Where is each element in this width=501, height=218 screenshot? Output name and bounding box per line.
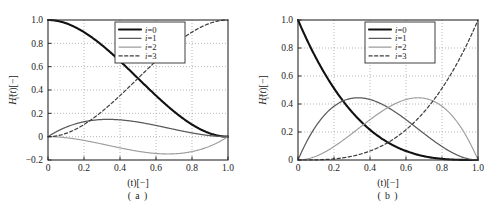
legend: i=0i=1i=2i=3: [115, 22, 185, 63]
x-tick-label: 0.6: [150, 163, 162, 173]
x-tick-label: 0.8: [186, 163, 198, 173]
curve-i1: [48, 119, 228, 136]
x-tick-label: 1.0: [472, 163, 484, 173]
y-tick-label: 0.4: [281, 99, 293, 109]
y-tick-label: 0.8: [31, 39, 43, 49]
x-tick-label: 0.4: [114, 163, 126, 173]
y-tick-label: 0.6: [31, 62, 43, 72]
legend-label-i3: i=3: [145, 51, 157, 61]
y-tick-label: 0.2: [281, 127, 293, 137]
curve-i2: [298, 98, 478, 160]
plot-a: 00.20.40.60.81.0−0.200.20.40.60.81.0(t)[…: [0, 0, 250, 218]
y-tick-label: 1.0: [281, 15, 293, 25]
panel-caption: ( a ): [128, 190, 148, 202]
y-tick-label: 0.2: [31, 109, 43, 119]
y-tick-label: 0: [288, 155, 293, 165]
x-tick-label: 0: [296, 163, 301, 173]
legend: i=0i=1i=2i=3: [365, 22, 435, 63]
x-axis-label: (t)[−]: [377, 177, 398, 189]
legend-label-i3: i=3: [395, 51, 407, 61]
panel-a: 00.20.40.60.81.0−0.200.20.40.60.81.0(t)[…: [0, 0, 250, 218]
plot-b: 00.20.40.60.81.000.20.40.60.81.0(t)[−]( …: [250, 0, 500, 218]
x-tick-label: 0.6: [400, 163, 412, 173]
y-tick-label: 0.4: [31, 85, 43, 95]
y-tick-label: 0: [38, 132, 43, 142]
panel-caption: ( b ): [378, 190, 399, 202]
x-tick-label: 0: [46, 163, 51, 173]
x-tick-label: 0.2: [328, 163, 340, 173]
x-tick-label: 0.4: [364, 163, 376, 173]
x-tick-label: 0.8: [436, 163, 448, 173]
x-tick-label: 0.2: [78, 163, 90, 173]
x-tick-label: 1.0: [222, 163, 234, 173]
y-tick-label: 0.6: [281, 71, 293, 81]
y-tick-label: 0.8: [281, 43, 293, 53]
y-axis-label: H3i(t)[−]: [7, 75, 21, 105]
y-axis-label: H3i(t)[−]: [257, 75, 271, 105]
panel-b: 00.20.40.60.81.000.20.40.60.81.0(t)[−]( …: [250, 0, 500, 218]
y-tick-label: 1.0: [31, 15, 43, 25]
y-tick-label: −0.2: [26, 155, 43, 165]
curve-i2: [48, 137, 228, 154]
x-axis-label: (t)[−]: [127, 177, 148, 189]
figure-container: 00.20.40.60.81.0−0.200.20.40.60.81.0(t)[…: [0, 0, 501, 218]
